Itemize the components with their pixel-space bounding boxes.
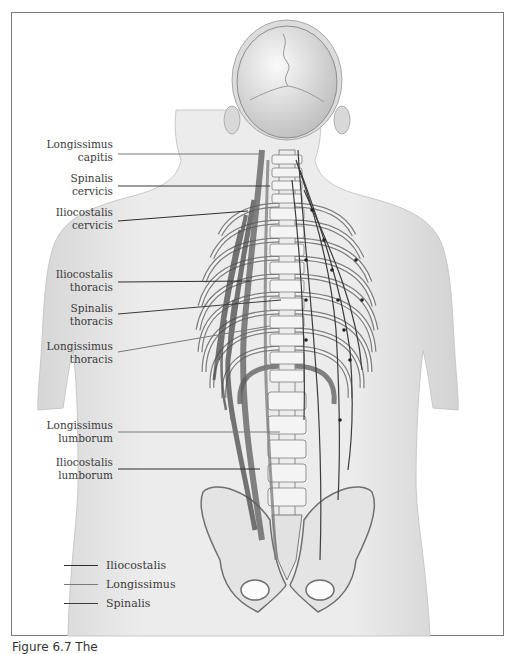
label-line-2: capitis [3, 151, 113, 164]
legend-swatch-longissimus [64, 584, 98, 585]
label-iliocostalis-lumborum: Iliocostalislumborum [3, 456, 113, 482]
label-line-2: cervicis [3, 185, 113, 198]
legend-item-spinalis: Spinalis [64, 594, 176, 613]
legend-item-iliocostalis: Iliocostalis [64, 556, 176, 575]
label-spinalis-cervicis: Spinaliscervicis [3, 172, 113, 198]
label-line-2: thoracis [3, 281, 113, 294]
label-iliocostalis-thoracis: Iliocostalisthoracis [3, 268, 113, 294]
label-line-2: lumborum [3, 469, 113, 482]
label-longissimus-lumborum: Longissimuslumborum [3, 419, 113, 445]
legend-label: Longissimus [106, 578, 176, 591]
label-longissimus-thoracis: Longissimusthoracis [3, 340, 113, 366]
label-line-1: Iliocostalis [3, 456, 113, 469]
legend-label: Spinalis [106, 597, 150, 610]
legend-label: Iliocostalis [106, 559, 166, 572]
label-line-1: Longissimus [3, 419, 113, 432]
label-line-1: Iliocostalis [3, 268, 113, 281]
label-line-2: thoracis [3, 315, 113, 328]
label-line-1: Longissimus [3, 138, 113, 151]
figure-caption: Figure 6.7 The [12, 640, 98, 654]
label-longissimus-capitis: Longissimuscapitis [3, 138, 113, 164]
legend: Iliocostalis Longissimus Spinalis [64, 556, 176, 613]
label-line-2: lumborum [3, 432, 113, 445]
label-line-1: Spinalis [3, 172, 113, 185]
legend-item-longissimus: Longissimus [64, 575, 176, 594]
label-line-1: Spinalis [3, 302, 113, 315]
label-line-1: Longissimus [3, 340, 113, 353]
label-spinalis-thoracis: Spinalisthoracis [3, 302, 113, 328]
legend-swatch-spinalis [64, 603, 98, 604]
legend-swatch-iliocostalis [64, 565, 98, 566]
label-line-2: thoracis [3, 353, 113, 366]
label-iliocostalis-cervicis: Iliocostaliscervicis [3, 206, 113, 232]
label-line-1: Iliocostalis [3, 206, 113, 219]
label-line-2: cervicis [3, 219, 113, 232]
